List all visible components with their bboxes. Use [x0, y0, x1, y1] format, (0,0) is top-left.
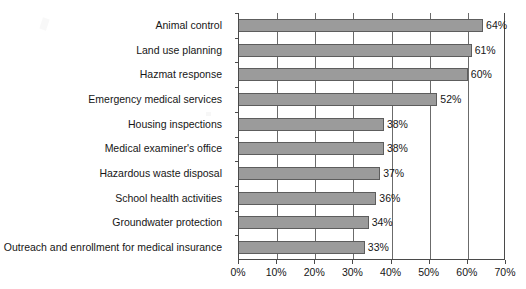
- category-label: Emergency medical services: [88, 93, 222, 106]
- bar-value-label: 38%: [384, 142, 408, 155]
- x-axis-tick: [238, 260, 239, 264]
- x-axis-tick: [314, 260, 315, 264]
- bar: [239, 241, 365, 254]
- x-axis-tick-label: 0%: [230, 266, 245, 278]
- bar: [239, 68, 468, 81]
- category-axis-labels: Animal controlLand use planningHazmat re…: [0, 13, 228, 260]
- bar-value-label: 60%: [468, 68, 492, 81]
- x-axis-tick-label: 70%: [494, 266, 515, 278]
- category-label: Housing inspections: [128, 118, 222, 131]
- bar: [239, 19, 483, 32]
- y-axis-tick: [235, 13, 239, 14]
- y-axis-tick: [235, 161, 239, 162]
- bar-chart: Animal controlLand use planningHazmat re…: [0, 0, 526, 289]
- bar-value-label: 33%: [365, 241, 389, 254]
- category-label: Animal control: [155, 19, 222, 32]
- x-axis-tick-label: 10%: [266, 266, 287, 278]
- x-axis-tick: [467, 260, 468, 264]
- x-axis-tick-label: 60%: [456, 266, 477, 278]
- bar: [239, 142, 384, 155]
- y-axis-tick: [235, 87, 239, 88]
- bar-value-label: 37%: [380, 167, 404, 180]
- bar: [239, 44, 472, 57]
- category-label: Hazmat response: [140, 68, 222, 81]
- y-axis-tick: [235, 137, 239, 138]
- x-axis-tick: [505, 260, 506, 264]
- x-axis-tick-label: 30%: [342, 266, 363, 278]
- bar: [239, 192, 376, 205]
- x-axis-tick: [391, 260, 392, 264]
- bar-value-label: 38%: [384, 118, 408, 131]
- bar: [239, 167, 380, 180]
- x-axis-tick-label: 20%: [304, 266, 325, 278]
- y-axis-tick: [235, 62, 239, 63]
- y-axis-tick: [235, 112, 239, 113]
- category-label: Land use planning: [136, 44, 222, 57]
- y-axis-tick: [235, 235, 239, 236]
- x-axis-tick-label: 40%: [380, 266, 401, 278]
- x-axis-tick: [429, 260, 430, 264]
- bar-value-label: 64%: [483, 19, 507, 32]
- y-axis-tick: [235, 211, 239, 212]
- bar: [239, 216, 369, 229]
- category-label: Hazardous waste disposal: [99, 167, 222, 180]
- plot-area: 64%61%60%52%38%38%37%36%34%33%: [238, 13, 505, 260]
- category-label: School health activities: [115, 192, 222, 205]
- x-axis-tick: [276, 260, 277, 264]
- x-axis-tick-label: 50%: [418, 266, 439, 278]
- y-axis-tick: [235, 38, 239, 39]
- y-axis-tick: [235, 186, 239, 187]
- bar-value-label: 36%: [376, 192, 400, 205]
- category-label: Medical examiner's office: [105, 142, 222, 155]
- category-label: Outreach and enrollment for medical insu…: [4, 241, 222, 254]
- bar-value-label: 34%: [369, 216, 393, 229]
- bar-value-label: 52%: [437, 93, 461, 106]
- category-label: Groundwater protection: [112, 216, 222, 229]
- bar: [239, 93, 437, 106]
- bar: [239, 118, 384, 131]
- x-axis-tick: [352, 260, 353, 264]
- bar-value-label: 61%: [472, 44, 496, 57]
